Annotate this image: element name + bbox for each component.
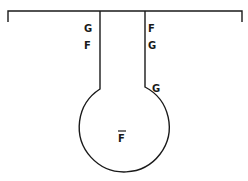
label-right-middle: G bbox=[148, 40, 156, 51]
surface-line bbox=[8, 11, 242, 22]
label-right-neck: G bbox=[152, 83, 160, 94]
label-right-upper: F bbox=[148, 23, 155, 34]
flask-diagram: G F F G G F bbox=[0, 0, 248, 181]
label-bulb-center: F bbox=[118, 133, 125, 144]
label-left-lower: F bbox=[84, 40, 91, 51]
diagram-svg: G F F G G F bbox=[0, 0, 248, 181]
label-left-upper: G bbox=[84, 23, 92, 34]
